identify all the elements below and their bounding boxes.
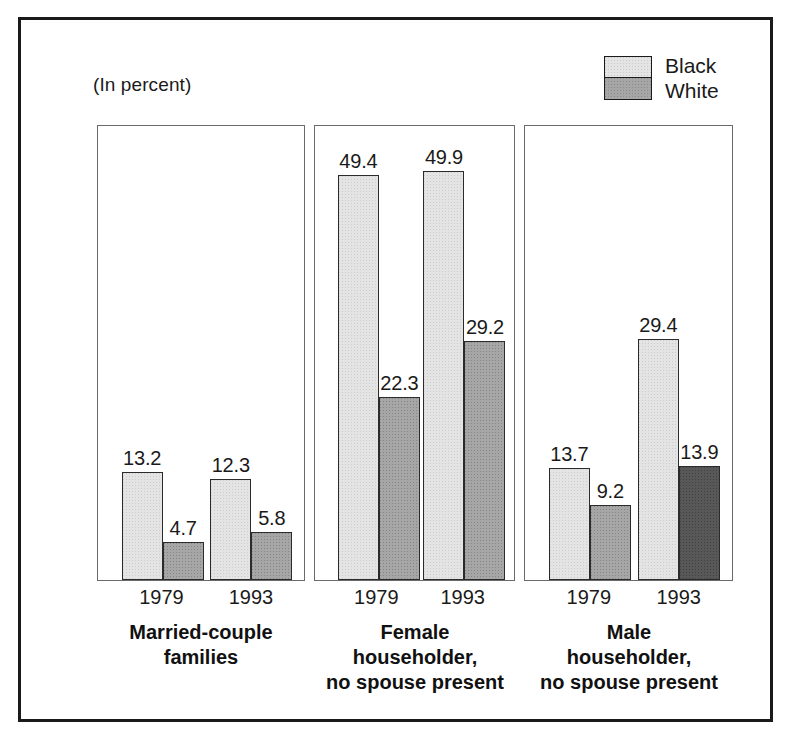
panel-caption-married-couple: Married-couple families bbox=[81, 620, 321, 670]
bar-slot-white: 5.8 bbox=[251, 532, 292, 580]
x-tick-1979: 1979 bbox=[567, 586, 612, 609]
bar-value-label: 13.9 bbox=[680, 441, 718, 464]
bar-value-label: 9.2 bbox=[597, 480, 624, 503]
bar-value-label: 13.7 bbox=[550, 443, 588, 466]
bar-slot-white: 13.9 bbox=[679, 466, 720, 580]
legend-swatch-white bbox=[605, 78, 651, 99]
x-axis-panel-2: 1979 1993 bbox=[314, 586, 515, 612]
caption-line: no spouse present bbox=[513, 670, 745, 695]
bar-black-1979[interactable]: 49.4 bbox=[338, 175, 379, 580]
x-tick-1993: 1993 bbox=[656, 586, 701, 609]
bar-slot-black: 49.9 bbox=[423, 171, 464, 580]
chart-panel-male-householder: 13.7 9.2 29.4 bbox=[524, 125, 733, 581]
bars-row: 13.7 9.2 bbox=[549, 468, 631, 580]
bar-value-label: 29.4 bbox=[639, 314, 677, 337]
figure-root: (In percent) Black White 13.2 bbox=[0, 0, 790, 738]
bar-slot-black: 29.4 bbox=[638, 339, 679, 580]
bar-black-1979[interactable]: 13.7 bbox=[549, 468, 590, 580]
bars-row: 12.3 5.8 bbox=[210, 479, 292, 580]
panel-caption-female-householder: Female householder, no spouse present bbox=[304, 620, 526, 695]
bar-slot-black: 13.2 bbox=[122, 472, 163, 580]
legend-item-white: White bbox=[665, 78, 719, 103]
caption-line: Male bbox=[513, 620, 745, 645]
caption-line: householder, bbox=[513, 645, 745, 670]
x-tick-1993: 1993 bbox=[229, 586, 274, 609]
bar-value-label: 4.7 bbox=[170, 517, 197, 540]
bar-white-1993[interactable]: 29.2 bbox=[464, 341, 505, 580]
bar-black-1979[interactable]: 13.2 bbox=[122, 472, 163, 580]
caption-line: no spouse present bbox=[304, 670, 526, 695]
caption-line: Married-couple bbox=[81, 620, 321, 645]
chart-panel-married-couple: 13.2 4.7 12.3 bbox=[97, 125, 305, 581]
legend-swatch-box bbox=[604, 56, 652, 100]
bar-black-1993[interactable]: 49.9 bbox=[423, 171, 464, 580]
bar-value-label: 29.2 bbox=[466, 316, 504, 339]
bar-slot-white: 29.2 bbox=[464, 341, 505, 580]
caption-line: families bbox=[81, 645, 321, 670]
bar-slot-black: 13.7 bbox=[549, 468, 590, 580]
bar-value-label: 49.4 bbox=[339, 150, 377, 173]
bars-row: 29.4 13.9 bbox=[638, 339, 720, 580]
bar-value-label: 13.2 bbox=[123, 447, 161, 470]
x-tick-1979: 1979 bbox=[354, 586, 399, 609]
bar-slot-white: 4.7 bbox=[163, 542, 204, 581]
bar-black-1993[interactable]: 29.4 bbox=[638, 339, 679, 580]
unit-note: (In percent) bbox=[93, 74, 191, 96]
x-axis-panel-3: 1979 1993 bbox=[524, 586, 733, 612]
caption-line: householder, bbox=[304, 645, 526, 670]
bar-slot-black: 49.4 bbox=[338, 175, 379, 580]
bar-slot-white: 22.3 bbox=[379, 397, 420, 580]
caption-line: Female bbox=[304, 620, 526, 645]
bar-value-label: 49.9 bbox=[425, 146, 463, 169]
bar-white-1979[interactable]: 4.7 bbox=[163, 542, 204, 581]
plot-area-panel-3: 13.7 9.2 29.4 bbox=[525, 126, 732, 580]
bar-slot-black: 12.3 bbox=[210, 479, 251, 580]
legend-swatch-black bbox=[605, 57, 651, 78]
panel-caption-male-householder: Male householder, no spouse present bbox=[513, 620, 745, 695]
legend-label-list: Black White bbox=[665, 53, 719, 103]
chart-panel-female-householder: 49.4 22.3 49.9 bbox=[314, 125, 515, 581]
bars-row: 49.9 29.2 bbox=[423, 171, 505, 580]
bar-slot-white: 9.2 bbox=[590, 505, 631, 580]
bars-row: 49.4 22.3 bbox=[338, 175, 420, 580]
plot-area-panel-1: 13.2 4.7 12.3 bbox=[98, 126, 304, 580]
bar-white-1979[interactable]: 9.2 bbox=[590, 505, 631, 580]
plot-area-panel-2: 49.4 22.3 49.9 bbox=[315, 126, 514, 580]
chart-legend: Black White bbox=[604, 56, 719, 103]
bar-value-label: 12.3 bbox=[212, 454, 250, 477]
bar-white-1993[interactable]: 5.8 bbox=[251, 532, 292, 580]
legend-item-black: Black bbox=[665, 53, 719, 78]
bar-black-1993[interactable]: 12.3 bbox=[210, 479, 251, 580]
x-tick-1979: 1979 bbox=[139, 586, 184, 609]
bar-white-1979[interactable]: 22.3 bbox=[379, 397, 420, 580]
bar-value-label: 22.3 bbox=[380, 372, 418, 395]
x-tick-1993: 1993 bbox=[440, 586, 485, 609]
figure-outer-frame: (In percent) Black White 13.2 bbox=[18, 17, 773, 722]
bar-value-label: 5.8 bbox=[258, 507, 285, 530]
bars-row: 13.2 4.7 bbox=[122, 472, 204, 580]
bar-white-1993[interactable]: 13.9 bbox=[679, 466, 720, 580]
x-axis-panel-1: 1979 1993 bbox=[97, 586, 305, 612]
